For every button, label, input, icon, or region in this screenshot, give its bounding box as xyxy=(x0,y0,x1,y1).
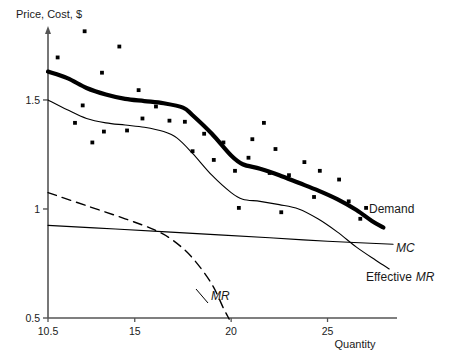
scatter-point xyxy=(274,147,278,151)
scatter-point xyxy=(268,171,272,175)
scatter-point xyxy=(137,88,141,92)
scatter-point xyxy=(279,210,283,214)
scatter-point xyxy=(262,121,266,125)
scatter-point xyxy=(81,104,85,108)
scatter-point xyxy=(337,178,341,182)
scatter-point xyxy=(347,199,351,203)
x-tick-label: 15 xyxy=(129,325,141,337)
scatter-point xyxy=(302,160,306,164)
effective-mr-ital: MR xyxy=(416,270,435,284)
y-tick-label: 1 xyxy=(34,203,40,215)
scatter-point xyxy=(183,120,187,124)
series-label-demand: Demand xyxy=(369,202,414,216)
scatter-point xyxy=(318,169,322,173)
scatter-point xyxy=(56,56,60,60)
scatter-point xyxy=(117,45,121,49)
x-axis-tick-labels: 10.5152025 xyxy=(38,325,334,337)
scatter-point xyxy=(247,156,251,160)
scatter-point xyxy=(312,195,316,199)
chart-figure: 0.511.5 10.5152025 Price, Cost, $ Quanti… xyxy=(0,0,450,359)
series-demand-curve xyxy=(48,72,383,228)
scatter-point xyxy=(233,169,237,173)
scatter-point xyxy=(154,105,158,109)
scatter-point xyxy=(102,130,106,134)
y-tick-label: 0.5 xyxy=(25,312,40,324)
x-tick-label: 20 xyxy=(225,325,237,337)
scatter-point xyxy=(222,141,226,145)
x-tick-label: 10.5 xyxy=(38,325,59,337)
scatter-point xyxy=(90,141,94,145)
series-label-effective-mr: EffectiveMR xyxy=(366,270,435,284)
series-label-mc: MC xyxy=(396,241,415,255)
series-effective-mr-curve xyxy=(48,100,389,269)
scatter-point xyxy=(141,117,145,121)
scatter-point xyxy=(250,137,254,141)
mr-leader-line xyxy=(196,289,208,303)
y-axis-tick-labels: 0.511.5 xyxy=(25,94,40,324)
scatter-point xyxy=(202,132,206,136)
scatter-point xyxy=(364,206,368,210)
scatter-point xyxy=(287,173,291,177)
scatter-point xyxy=(212,158,216,162)
x-tick-label: 25 xyxy=(322,325,334,337)
scatter-point xyxy=(237,206,241,210)
scatter-point xyxy=(168,119,172,123)
axes-group xyxy=(43,26,397,322)
y-axis-arrow-icon xyxy=(45,26,51,34)
scatter-point xyxy=(358,217,362,221)
scatter-point xyxy=(100,71,104,75)
y-tick-label: 1.5 xyxy=(25,94,40,106)
effective-mr-prefix: Effective xyxy=(366,270,412,284)
economics-demand-chart: 0.511.5 10.5152025 Price, Cost, $ Quanti… xyxy=(0,0,450,359)
series-mr-curve xyxy=(48,193,229,319)
scatter-point xyxy=(73,121,77,125)
x-axis-title: Quantity xyxy=(335,338,376,350)
y-axis-title: Price, Cost, $ xyxy=(16,8,82,20)
series-layer xyxy=(48,72,393,319)
series-label-mr: MR xyxy=(211,289,230,303)
scatter-point xyxy=(83,29,87,33)
scatter-point xyxy=(191,149,195,153)
scatter-point xyxy=(125,129,129,133)
